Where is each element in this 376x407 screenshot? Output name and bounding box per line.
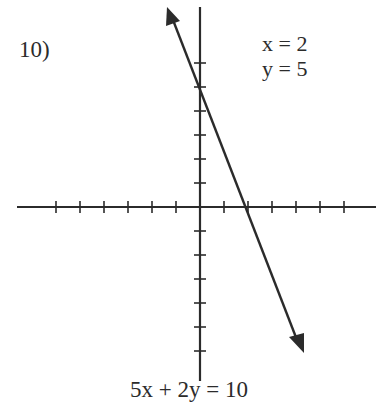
arrow-down-icon <box>289 333 304 353</box>
equation-line <box>166 7 304 353</box>
coordinate-graph <box>0 0 376 407</box>
arrow-up-icon <box>166 7 180 26</box>
